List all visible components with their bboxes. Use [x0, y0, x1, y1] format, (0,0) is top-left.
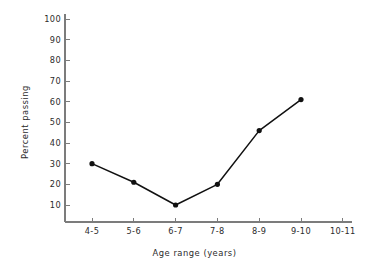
y-axis-title: Percent passing — [20, 85, 30, 159]
x-tick-label: 4-5 — [85, 226, 100, 236]
y-tick-label: 40 — [50, 138, 61, 148]
x-tick-label: 5-6 — [127, 226, 142, 236]
data-point-marker — [173, 202, 178, 207]
chart-container: 102030405060708090100 4-55-66-77-88-99-1… — [0, 0, 366, 269]
data-point-marker — [215, 182, 220, 187]
y-tick-label: 30 — [50, 159, 61, 169]
x-tick-label: 6-7 — [168, 226, 183, 236]
y-tick-label: 60 — [50, 97, 61, 107]
y-tick-label: 50 — [50, 117, 61, 127]
line-chart: 102030405060708090100 4-55-66-77-88-99-1… — [0, 0, 366, 269]
data-point-marker — [298, 97, 303, 102]
data-point-marker — [257, 128, 262, 133]
x-tick-label: 7-8 — [210, 226, 225, 236]
x-axis-ticks — [92, 218, 343, 223]
series-line-percent-passing — [92, 100, 301, 205]
series-markers — [89, 97, 303, 208]
x-axis-tick-labels: 4-55-66-77-88-99-1010-11 — [85, 226, 356, 236]
y-tick-label: 80 — [50, 55, 61, 65]
data-point-marker — [89, 161, 94, 166]
y-tick-label: 100 — [44, 14, 61, 24]
x-tick-label: 9-10 — [291, 226, 311, 236]
y-axis-tick-labels: 102030405060708090100 — [44, 14, 61, 210]
x-axis-title: Age range (years) — [153, 248, 237, 258]
data-point-marker — [131, 180, 136, 185]
y-axis-ticks — [65, 19, 70, 205]
y-tick-label: 90 — [50, 35, 61, 45]
y-tick-label: 20 — [50, 179, 61, 189]
x-tick-label: 8-9 — [252, 226, 267, 236]
y-tick-label: 10 — [50, 200, 61, 210]
y-tick-label: 70 — [50, 76, 61, 86]
x-tick-label: 10-11 — [330, 226, 356, 236]
